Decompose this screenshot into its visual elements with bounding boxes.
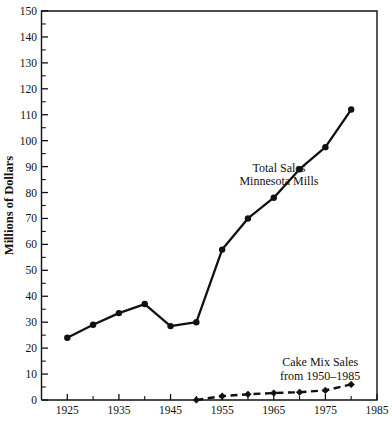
y-tick-label: 40 — [26, 290, 38, 302]
series-marker-0 — [64, 335, 70, 341]
series-marker-0 — [167, 323, 173, 329]
y-tick-label: 0 — [31, 394, 37, 406]
series-marker-0 — [90, 322, 96, 328]
y-tick-label: 80 — [26, 187, 38, 199]
y-tick-label: 10 — [26, 368, 38, 380]
annotation-line-1: Total Sales — [253, 161, 306, 175]
series-marker-0 — [142, 301, 148, 307]
y-axis-ticks — [42, 11, 49, 400]
y-tick-label: 130 — [20, 57, 38, 69]
x-tick-label: 1925 — [56, 404, 79, 416]
annotation-cake-mix-sales: Cake Mix Salesfrom 1950–1985 — [280, 355, 360, 383]
series-marker-0 — [271, 195, 277, 201]
annotation-line-1: Cake Mix Sales — [282, 355, 358, 369]
series-marker-1 — [245, 391, 252, 398]
y-tick-label: 50 — [26, 264, 38, 276]
series-marker-0 — [322, 144, 328, 150]
y-tick-label: 20 — [26, 342, 38, 354]
series-marker-1 — [296, 389, 303, 396]
x-tick-label: 1945 — [159, 404, 182, 416]
y-axis-tick-labels: 0102030405060708090100110120130140150 — [20, 5, 38, 406]
annotation-line-2: Minnesota Mills — [239, 174, 318, 188]
chart-annotations: Total SalesMinnesota MillsCake Mix Sales… — [239, 161, 360, 383]
x-tick-label: 1975 — [314, 404, 337, 416]
series-marker-0 — [219, 246, 225, 252]
y-axis-title: Millions of Dollars — [2, 156, 16, 255]
series-marker-1 — [193, 397, 200, 404]
series-marker-1 — [322, 387, 329, 394]
line-chart: 0102030405060708090100110120130140150 19… — [0, 0, 392, 423]
series-marker-0 — [116, 310, 122, 316]
y-tick-label: 100 — [20, 135, 38, 147]
y-tick-label: 90 — [26, 161, 38, 173]
series-marker-1 — [219, 393, 226, 400]
y-axis-title-text: Millions of Dollars — [2, 156, 16, 255]
series-marker-1 — [270, 390, 277, 397]
x-tick-label: 1955 — [211, 404, 234, 416]
plot-frame — [42, 11, 378, 400]
y-tick-label: 30 — [26, 316, 38, 328]
y-tick-label: 110 — [20, 109, 37, 121]
x-tick-label: 1935 — [107, 404, 130, 416]
y-tick-label: 70 — [26, 212, 38, 224]
y-tick-label: 150 — [20, 5, 38, 17]
y-tick-label: 60 — [26, 238, 38, 250]
y-tick-label: 140 — [20, 31, 38, 43]
x-axis-tick-labels: 1925193519451955196519751985 — [56, 404, 389, 416]
annotation-total-sales: Total SalesMinnesota Mills — [239, 161, 318, 189]
series-marker-0 — [348, 106, 354, 112]
x-tick-label: 1965 — [262, 404, 285, 416]
series-marker-0 — [193, 319, 199, 325]
chart-page: 0102030405060708090100110120130140150 19… — [0, 0, 392, 423]
x-tick-label: 1985 — [366, 404, 389, 416]
series-line-0 — [67, 110, 351, 338]
y-tick-label: 120 — [20, 83, 38, 95]
annotation-line-2: from 1950–1985 — [280, 369, 360, 383]
series-marker-0 — [245, 215, 251, 221]
plot-border — [42, 11, 378, 400]
